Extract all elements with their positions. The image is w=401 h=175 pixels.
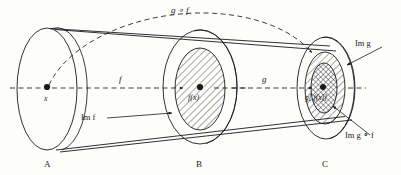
set-c-shape xyxy=(297,37,355,139)
diagram-canvas xyxy=(0,0,401,175)
im-f-leader xyxy=(107,113,172,118)
set-a-shape xyxy=(17,28,87,150)
point-fx-label: f(x) xyxy=(188,94,199,102)
point-gfx xyxy=(320,84,326,90)
im-g-leader xyxy=(347,47,382,65)
map-g-label: g xyxy=(262,75,267,84)
im-g-label: Im g xyxy=(355,39,371,48)
set-c-label: C xyxy=(322,160,328,169)
set-a-label: A xyxy=(44,160,51,169)
im-f-label: Im f xyxy=(81,113,95,122)
im-g-of-f-label: Im g ∘ f xyxy=(345,131,374,140)
set-b-label: B xyxy=(196,160,202,169)
composite-map-label: g ∘ f xyxy=(171,6,189,15)
point-gfx-label: g[ f(x)] xyxy=(305,94,327,102)
function-composition-figure: g ∘ f f g x f(x) g[ f(x)] Im f Im g Im g… xyxy=(0,0,401,175)
map-f-label: f xyxy=(119,75,122,84)
point-fx xyxy=(197,84,203,90)
point-x-label: x xyxy=(44,95,48,103)
point-x xyxy=(44,84,50,90)
